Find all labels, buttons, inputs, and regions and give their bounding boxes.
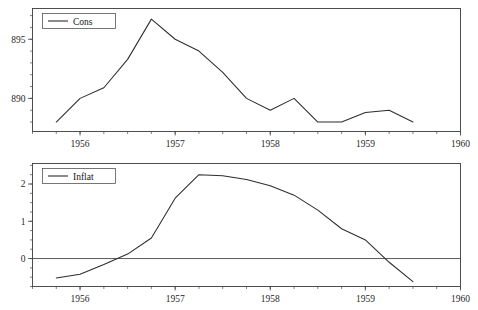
cons-plot-svg: 19561957195819591960 890895 Cons [0, 0, 478, 155]
cons-legend: Cons [43, 14, 116, 29]
x-tick-label: 1960 [451, 294, 470, 304]
cons-x-tick-labels: 19561957195819591960 [71, 139, 471, 149]
x-tick-label: 1957 [166, 139, 185, 149]
cons-legend-label: Cons [73, 17, 93, 27]
inflat-legend-label: Inflat [73, 172, 94, 182]
cons-y-ticks [28, 39, 33, 98]
inflat-x-ticks [80, 287, 460, 291]
y-tick-label: 890 [11, 94, 26, 104]
inflat-x-tick-labels: 19561957195819591960 [71, 294, 471, 304]
inflat-y-ticks [28, 184, 33, 259]
y-tick-label: 2 [21, 179, 26, 189]
cons-x-ticks [80, 132, 460, 136]
y-tick-label: 895 [11, 35, 26, 45]
x-tick-label: 1956 [71, 139, 90, 149]
y-tick-label: 1 [21, 217, 26, 227]
x-tick-label: 1960 [451, 139, 470, 149]
chart-panel-inflat: 19561957195819591960 012 Inflat [0, 155, 478, 310]
inflat-y-tick-labels: 012 [21, 179, 26, 264]
chart-panel-cons: 19561957195819591960 890895 Cons [0, 0, 478, 155]
x-tick-label: 1959 [356, 139, 375, 149]
x-tick-label: 1956 [71, 294, 90, 304]
cons-y-tick-labels: 890895 [11, 35, 26, 104]
x-tick-label: 1958 [261, 139, 280, 149]
x-tick-label: 1957 [166, 294, 185, 304]
x-tick-label: 1959 [356, 294, 375, 304]
y-tick-label: 0 [21, 254, 26, 264]
inflat-plot-svg: 19561957195819591960 012 Inflat [0, 155, 478, 310]
cons-minor-ticks [30, 16, 461, 134]
cons-series-line [56, 19, 413, 122]
inflat-series-line [56, 175, 413, 282]
x-tick-label: 1958 [261, 294, 280, 304]
inflat-legend: Inflat [43, 169, 116, 184]
timeseries-figure: 19561957195819591960 890895 Cons 1956195… [0, 0, 478, 310]
inflat-minor-ticks [30, 165, 461, 289]
